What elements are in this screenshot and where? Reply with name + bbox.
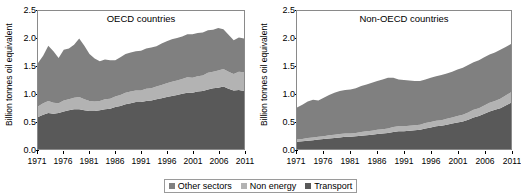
x-tick-label: 1986 — [106, 156, 125, 166]
x-tick-mark — [141, 151, 142, 154]
x-tick-mark — [193, 151, 194, 154]
x-tick-mark — [115, 151, 116, 154]
x-tick-label: 2011 — [236, 156, 254, 166]
plot-frame-oecd — [37, 10, 245, 150]
y-axis-label-non-oecd: Billion tonnes oil equivalent — [257, 0, 271, 150]
x-tick-label: 1976 — [314, 156, 333, 166]
x-tick-mark — [296, 151, 297, 154]
chart-figure: Billion tonnes oil equivalent 0.00.51.01… — [0, 0, 521, 195]
legend-label: Transport — [314, 181, 352, 191]
legend-swatch-icon — [169, 183, 175, 189]
x-tick-mark — [167, 151, 168, 154]
legend-label: Other sectors — [178, 181, 232, 191]
x-tick-label: 2001 — [184, 156, 203, 166]
x-tick-label: 1996 — [158, 156, 177, 166]
x-tick-mark — [323, 151, 324, 154]
legend-item[interactable]: Other sectors — [169, 181, 232, 191]
y-tick-label: 0.0 — [23, 145, 36, 155]
legend-box: Other sectorsNon energyTransport — [164, 179, 358, 193]
chart-panel-non-oecd: Billion tonnes oil equivalent 0.00.51.01… — [255, 0, 521, 170]
x-tick-label: 1981 — [341, 156, 360, 166]
chart-title-oecd: OECD countries — [37, 13, 245, 24]
chart-panel-oecd: Billion tonnes oil equivalent 0.00.51.01… — [0, 0, 255, 170]
x-tick-label: 1996 — [422, 156, 441, 166]
area-series-oecd — [38, 11, 244, 149]
legend-item[interactable]: Non energy — [241, 181, 297, 191]
x-tick-label: 1971 — [28, 156, 47, 166]
y-axis-ticks-oecd: 0.00.51.01.52.02.5 — [14, 10, 36, 160]
plot-area-non-oecd: Non-OECD countries 197119761981198619911… — [296, 10, 512, 150]
x-tick-label: 2006 — [210, 156, 229, 166]
x-tick-mark — [219, 151, 220, 154]
y-tick-label: 2.0 — [282, 33, 295, 43]
chart-legend: Other sectorsNon energyTransport — [0, 179, 521, 193]
y-tick-label: 2.0 — [23, 33, 36, 43]
x-tick-mark — [404, 151, 405, 154]
legend-swatch-icon — [305, 183, 311, 189]
y-tick-label: 0.5 — [23, 117, 36, 127]
x-tick-label: 1991 — [132, 156, 151, 166]
y-axis-ticks-non-oecd: 0.00.51.01.52.02.5 — [273, 10, 295, 160]
x-tick-mark — [485, 151, 486, 154]
y-tick-label: 1.5 — [282, 61, 295, 71]
x-tick-mark — [245, 151, 246, 154]
area-series-non-oecd — [297, 11, 511, 149]
x-tick-mark — [89, 151, 90, 154]
x-tick-mark — [512, 151, 513, 154]
x-tick-mark — [350, 151, 351, 154]
legend-label: Non energy — [250, 181, 297, 191]
x-axis-ticks-non-oecd: 197119761981198619911996200120062011 — [296, 151, 512, 169]
x-tick-mark — [431, 151, 432, 154]
x-axis-ticks-oecd: 197119761981198619911996200120062011 — [37, 151, 245, 169]
x-tick-label: 1976 — [54, 156, 73, 166]
y-tick-label: 2.5 — [282, 5, 295, 15]
legend-item[interactable]: Transport — [305, 181, 352, 191]
x-tick-mark — [63, 151, 64, 154]
x-tick-label: 1971 — [287, 156, 306, 166]
y-tick-label: 1.0 — [282, 89, 295, 99]
x-tick-label: 1986 — [368, 156, 387, 166]
x-tick-mark — [377, 151, 378, 154]
x-tick-label: 2011 — [503, 156, 521, 166]
plot-frame-non-oecd — [296, 10, 512, 150]
plot-area-oecd: OECD countries 1971197619811986199119962… — [37, 10, 245, 150]
y-tick-label: 1.5 — [23, 61, 36, 71]
x-tick-label: 1981 — [80, 156, 99, 166]
x-tick-mark — [458, 151, 459, 154]
legend-swatch-icon — [241, 183, 247, 189]
y-tick-label: 2.5 — [23, 5, 36, 15]
chart-title-non-oecd: Non-OECD countries — [296, 13, 512, 24]
x-tick-label: 2006 — [476, 156, 495, 166]
x-tick-label: 1991 — [395, 156, 414, 166]
y-tick-label: 0.5 — [282, 117, 295, 127]
x-tick-label: 2001 — [449, 156, 468, 166]
x-tick-mark — [37, 151, 38, 154]
y-tick-label: 0.0 — [282, 145, 295, 155]
y-tick-label: 1.0 — [23, 89, 36, 99]
